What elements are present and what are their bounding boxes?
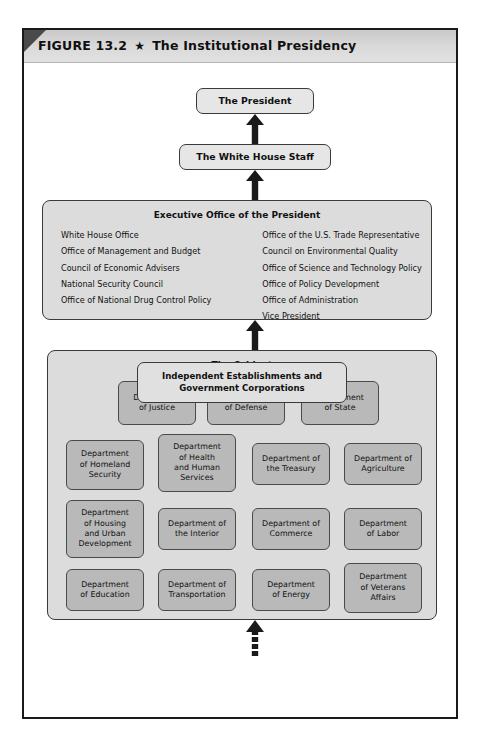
independent-line-1: Independent Establishments and bbox=[162, 371, 322, 381]
dept-box[interactable]: Departmentof Labor bbox=[344, 508, 422, 550]
eop-item[interactable]: Office of Administration bbox=[262, 296, 431, 304]
dept-box[interactable]: Departmentof Energy bbox=[252, 569, 330, 611]
dept-label: Department ofAgriculture bbox=[354, 454, 412, 475]
node-white-house-staff-label: The White House Staff bbox=[196, 151, 313, 164]
arrow-eop-to-staff bbox=[246, 170, 264, 200]
eop-item[interactable]: Council on Environmental Quality bbox=[262, 247, 431, 255]
dept-box[interactable]: Department ofTransportation bbox=[158, 569, 236, 611]
node-president[interactable]: The President bbox=[196, 88, 314, 114]
dept-label: Departmentof Housingand UrbanDevelopment bbox=[78, 508, 131, 550]
eop-item[interactable]: White House Office bbox=[61, 231, 260, 239]
dept-box[interactable]: Departmentof Healthand HumanServices bbox=[158, 434, 236, 492]
node-independent-establishments[interactable]: Independent Establishments and Governmen… bbox=[137, 362, 347, 403]
figure-header-bar: FIGURE 13.2★The Institutional Presidency bbox=[24, 30, 456, 63]
figure-frame: FIGURE 13.2★The Institutional Presidency… bbox=[22, 28, 458, 719]
star-icon: ★ bbox=[134, 39, 145, 53]
arrow-independent-to-cabinet bbox=[246, 620, 264, 656]
eop-item[interactable]: Council of Economic Advisers bbox=[61, 264, 260, 272]
node-president-label: The President bbox=[219, 95, 292, 108]
arrow-staff-to-president bbox=[246, 114, 264, 144]
dept-label: Departmentof Labor bbox=[359, 519, 407, 540]
eop-columns: White House Office Office of Management … bbox=[43, 231, 431, 329]
eop-column-left: White House Office Office of Management … bbox=[43, 231, 260, 329]
dept-label: Department ofCommerce bbox=[262, 519, 320, 540]
dept-label: Departmentof HomelandSecurity bbox=[80, 449, 130, 480]
dept-box[interactable]: Department ofthe Interior bbox=[158, 508, 236, 550]
dept-label: Departmentof Healthand HumanServices bbox=[173, 442, 221, 484]
node-independent-establishments-label: Independent Establishments and Governmen… bbox=[162, 371, 322, 394]
dept-label: Departmentof Education bbox=[80, 580, 129, 601]
arrow-cabinet-to-eop bbox=[246, 320, 264, 350]
dept-label: Department ofthe Treasury bbox=[262, 454, 320, 475]
dept-box[interactable]: Department ofAgriculture bbox=[344, 443, 422, 485]
eop-item[interactable]: Office of Policy Development bbox=[262, 280, 431, 288]
dept-box[interactable]: Departmentof Housingand UrbanDevelopment bbox=[66, 500, 144, 558]
group-executive-office-title: Executive Office of the President bbox=[43, 210, 431, 220]
eop-item[interactable]: Vice President bbox=[262, 312, 431, 320]
eop-item[interactable]: Office of Science and Technology Policy bbox=[262, 264, 431, 272]
figure-title: The Institutional Presidency bbox=[152, 38, 356, 53]
figure-number: FIGURE 13.2 bbox=[38, 38, 127, 53]
eop-item[interactable]: Office of National Drug Control Policy bbox=[61, 296, 260, 304]
group-executive-office: Executive Office of the President White … bbox=[42, 200, 432, 320]
figure-caption: FIGURE 13.2★The Institutional Presidency bbox=[38, 38, 356, 53]
dept-box[interactable]: Departmentof HomelandSecurity bbox=[66, 440, 144, 490]
dept-label: Department ofthe Interior bbox=[168, 519, 226, 540]
eop-item[interactable]: Office of Management and Budget bbox=[61, 247, 260, 255]
eop-item[interactable]: National Security Council bbox=[61, 280, 260, 288]
eop-item[interactable]: Office of the U.S. Trade Representative bbox=[262, 231, 431, 239]
dept-label: Departmentof Energy bbox=[267, 580, 315, 601]
dept-box[interactable]: Departmentof VeteransAffairs bbox=[344, 563, 422, 613]
node-white-house-staff[interactable]: The White House Staff bbox=[179, 144, 331, 170]
dept-box[interactable]: Departmentof Education bbox=[66, 569, 144, 611]
dept-label: Departmentof VeteransAffairs bbox=[359, 572, 407, 603]
dept-box[interactable]: Department ofthe Treasury bbox=[252, 443, 330, 485]
dept-box[interactable]: Department ofCommerce bbox=[252, 508, 330, 550]
independent-line-2: Government Corporations bbox=[179, 383, 304, 393]
dept-label: Department ofTransportation bbox=[168, 580, 226, 601]
eop-column-right: Office of the U.S. Trade Representative … bbox=[260, 231, 431, 329]
